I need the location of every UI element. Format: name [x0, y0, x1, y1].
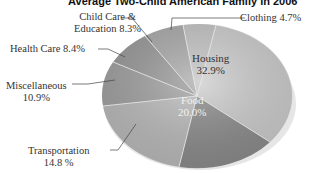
label-housing: Housing 32.9%: [192, 52, 229, 76]
label-misc-value: 10.9%: [6, 92, 67, 104]
label-clothing: Clothing 4.7%: [240, 12, 301, 24]
label-transportation: Transportation 14.8 %: [28, 145, 89, 169]
label-food: Food 20.0%: [178, 94, 206, 118]
label-health-care: Health Care 8.4%: [10, 43, 85, 55]
label-food-value: 20.0%: [178, 106, 206, 118]
label-housing-name: Housing: [192, 52, 229, 64]
label-child-care-name: Child Care &: [74, 11, 141, 23]
label-miscellaneous: Miscellaneous 10.9%: [6, 80, 67, 104]
label-transportation-value: 14.8 %: [28, 157, 89, 169]
label-misc-name: Miscellaneous: [6, 80, 67, 92]
label-child-care-value: Education 8.3%: [74, 23, 141, 35]
label-food-name: Food: [178, 94, 206, 106]
label-housing-value: 32.9%: [192, 64, 229, 76]
label-transportation-name: Transportation: [28, 145, 89, 157]
label-child-care: Child Care & Education 8.3%: [74, 11, 141, 35]
